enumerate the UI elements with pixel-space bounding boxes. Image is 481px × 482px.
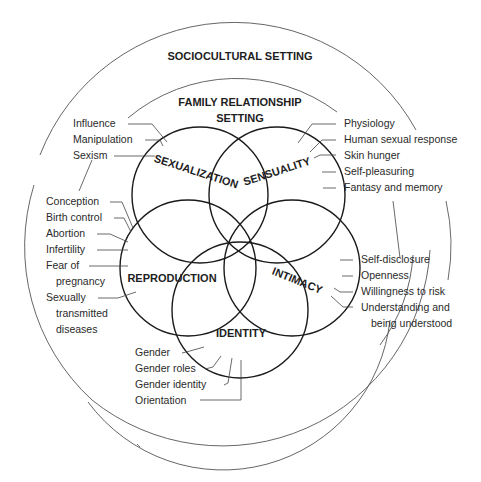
intimacy-label: INTIMACY	[271, 265, 325, 296]
item-sti-3: diseases	[56, 323, 97, 335]
family-label-line1: FAMILY RELATIONSHIP	[178, 96, 301, 108]
item-understanding-1: Understanding and	[361, 301, 450, 313]
reproduction-circle	[120, 200, 256, 336]
item-self-disclosure: Self-disclosure	[361, 253, 430, 265]
item-influence: Influence	[73, 117, 116, 129]
sexuality-circles-diagram: SOCIOCULTURAL SETTING FAMILY RELATIONSHI…	[0, 0, 481, 482]
intimacy-circle	[224, 200, 360, 336]
item-fantasy-and-memory: Fantasy and memory	[344, 181, 443, 193]
identity-circle	[172, 242, 308, 378]
item-self-pleasuring: Self-pleasuring	[344, 165, 414, 177]
item-sti-2: transmitted	[56, 307, 108, 319]
item-orientation: Orientation	[135, 394, 187, 406]
item-fear-of-pregnancy-1: Fear of	[46, 259, 79, 271]
item-conception: Conception	[46, 195, 99, 207]
sociocultural-label: SOCIOCULTURAL SETTING	[167, 50, 312, 62]
identity-label: IDENTITY	[216, 327, 267, 339]
item-sti-1: Sexually	[46, 291, 86, 303]
item-abortion: Abortion	[46, 227, 85, 239]
item-skin-hunger: Skin hunger	[344, 149, 401, 161]
item-openness: Openness	[361, 269, 409, 281]
item-fear-of-pregnancy-2: pregnancy	[56, 275, 106, 287]
item-gender-roles: Gender roles	[135, 362, 196, 374]
reproduction-label: REPRODUCTION	[127, 272, 216, 284]
item-gender: Gender	[135, 346, 171, 358]
item-sexism: Sexism	[73, 149, 108, 161]
item-physiology: Physiology	[344, 117, 396, 129]
family-label-line2: SETTING	[216, 112, 264, 124]
item-understanding-2: being understood	[371, 317, 452, 329]
item-willingness-to-risk: Willingness to risk	[361, 285, 446, 297]
sexualization-label: SEXUALIZATION	[153, 152, 240, 191]
item-gender-identity: Gender identity	[135, 378, 207, 390]
sensuality-label: SENSUALITY	[242, 155, 313, 188]
item-manipulation: Manipulation	[73, 133, 133, 145]
item-birth-control: Birth control	[46, 211, 102, 223]
item-human-sexual-response: Human sexual response	[344, 133, 457, 145]
sociocultural-setting-ring	[25, 22, 430, 445]
item-infertility: Infertility	[46, 243, 86, 255]
